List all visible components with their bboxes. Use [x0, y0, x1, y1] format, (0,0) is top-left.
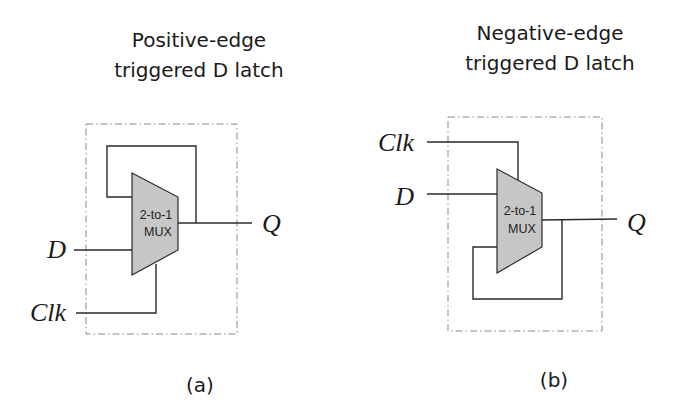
- panel-b-title-line1: Negative-edge: [477, 21, 624, 45]
- panel-b-mux-label-line2: MUX: [508, 222, 536, 236]
- latch-diagram-figure: Positive-edge triggered D latch 2-to-1 M…: [0, 0, 684, 417]
- panel-a-d-label: D: [46, 235, 66, 264]
- panel-a-title-line1: Positive-edge: [132, 28, 266, 52]
- panel-a-title-line2: triggered D latch: [114, 58, 284, 82]
- panel-b-d-label: D: [394, 182, 414, 211]
- panel-b-title-line2: triggered D latch: [465, 51, 635, 75]
- panel-a-mux-label-line1: 2-to-1: [140, 208, 173, 222]
- panel-b-clk-label: Clk: [378, 128, 415, 157]
- panel-b-q-output-wire: [542, 219, 617, 220]
- panel-a-positive-edge-latch: Positive-edge triggered D latch 2-to-1 M…: [30, 28, 284, 397]
- panel-b-mux-block: [497, 169, 542, 273]
- panel-a-q-label: Q: [262, 209, 281, 238]
- panel-b-caption: (b): [540, 368, 568, 392]
- panel-b-negative-edge-latch: Negative-edge triggered D latch 2-to-1 M…: [378, 21, 646, 392]
- panel-b-mux-label-line1: 2-to-1: [504, 204, 537, 218]
- panel-b-q-label: Q: [627, 208, 646, 237]
- panel-a-clk-label: Clk: [30, 298, 67, 327]
- panel-a-mux-block: [132, 173, 178, 275]
- panel-a-mux-label-line2: MUX: [144, 225, 172, 239]
- panel-a-caption: (a): [186, 373, 214, 397]
- panel-a-clk-wire: [76, 264, 156, 313]
